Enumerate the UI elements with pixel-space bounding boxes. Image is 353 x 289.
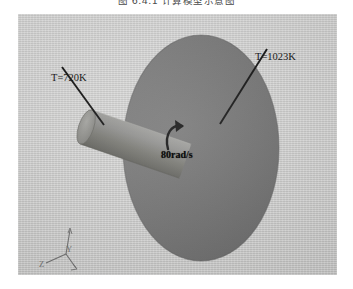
axis-label-z: Z <box>39 259 44 269</box>
axis-label-y: Y <box>66 244 72 254</box>
rotation-speed-label: 80rad/s <box>161 149 193 160</box>
figure-caption-text: 图 6.4.1 计算模型示意图 <box>0 0 353 7</box>
temperature-label-disc: T=1023K <box>255 51 296 62</box>
figure-caption-bar: 图 6.4.1 计算模型示意图 <box>0 0 353 11</box>
axis-triad-icon <box>46 228 77 270</box>
temperature-label-cylinder: T=720K <box>51 72 87 83</box>
model-render-viewport: T=720K T=1023K 80rad/s Z Y X <box>18 14 337 275</box>
